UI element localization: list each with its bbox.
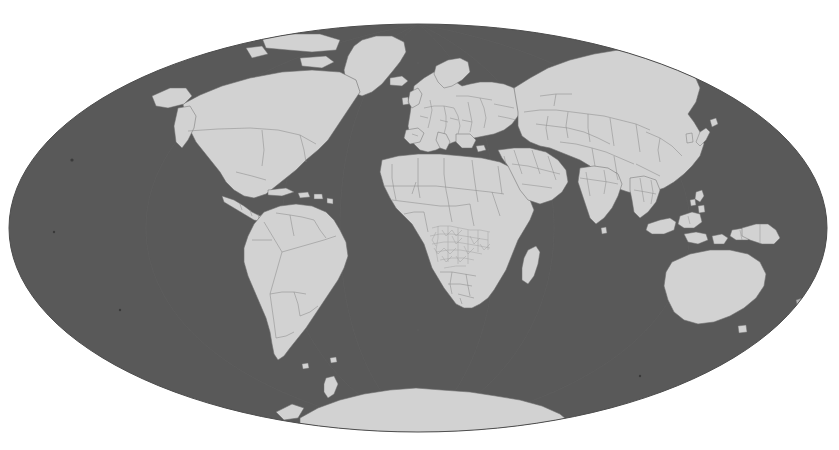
world-map-svg[interactable] [0, 0, 839, 450]
feature-tasmania [738, 325, 747, 333]
feature-sri-lanka [601, 227, 607, 234]
map-figure: Mollweide (equal-area elliptical) [0, 0, 839, 450]
feature-korea [686, 133, 693, 143]
